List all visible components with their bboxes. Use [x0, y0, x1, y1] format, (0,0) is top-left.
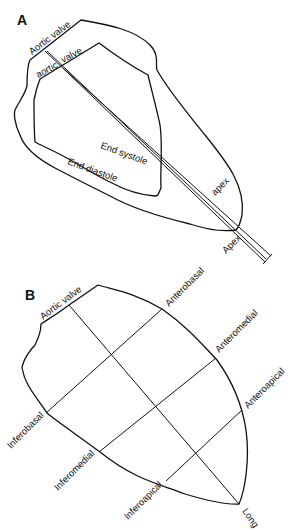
- panel-a: A Aortic valve aortic valve End systole …: [15, 12, 272, 264]
- aortic-valve-label: Aortic valve: [38, 283, 84, 321]
- panel-a-label: A: [17, 12, 27, 28]
- long-axis-line-1: [45, 51, 265, 262]
- panel-b: B Aortic valve Anterobasal Anteromedial …: [5, 265, 287, 530]
- medial-line: [99, 358, 216, 452]
- panel-b-label: B: [25, 287, 35, 303]
- anterobasal-label: Anterobasal: [163, 265, 207, 309]
- aortic-valve-inner-label-1: aortic: [34, 59, 60, 80]
- inferoapical-label: Inferoapical: [122, 479, 165, 522]
- ventricle-diagram: A Aortic valve aortic valve End systole …: [0, 0, 300, 531]
- end-diastole-label: End diastole: [66, 156, 119, 184]
- basal-line: [46, 309, 162, 413]
- inferobasal-label: Inferobasal: [5, 409, 46, 450]
- inferomedial-label: Inferomedial: [52, 448, 97, 493]
- apical-line: [166, 410, 242, 481]
- aortic-valve-inner-label-2: valve: [59, 45, 84, 65]
- apex-inner-label: apex: [209, 175, 232, 198]
- apex-outer-label: Apex: [220, 232, 243, 255]
- long-axis-line-3: [47, 51, 266, 259]
- axis-end-tick: [263, 254, 272, 264]
- anteroapical-label: Anteroapical: [242, 365, 287, 410]
- ventricle-outline: [22, 285, 247, 504]
- anteromedial-label: Anteromedial: [213, 307, 260, 354]
- long-label: Long: [240, 506, 261, 530]
- long-axis-line: [69, 305, 239, 504]
